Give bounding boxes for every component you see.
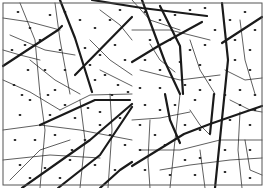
dot — [87, 107, 90, 109]
dot — [204, 7, 207, 9]
dot — [224, 149, 227, 151]
dot — [249, 149, 252, 151]
dot — [127, 91, 130, 93]
dot — [229, 19, 232, 21]
dot — [234, 39, 237, 41]
dot — [119, 117, 122, 119]
dot — [11, 49, 14, 51]
dot — [254, 29, 257, 31]
dot — [47, 94, 50, 96]
dot — [159, 69, 162, 71]
dot — [244, 11, 247, 13]
dot — [224, 171, 227, 173]
dot — [44, 167, 47, 169]
dot — [194, 174, 197, 176]
dot — [84, 139, 87, 141]
dot — [39, 39, 42, 41]
dot — [79, 19, 82, 21]
dot — [29, 99, 32, 101]
dot — [59, 49, 62, 51]
dot — [124, 59, 127, 61]
dot — [199, 129, 202, 131]
dot — [249, 69, 252, 71]
dot — [249, 49, 252, 51]
dot — [59, 177, 62, 179]
dot — [109, 134, 112, 136]
dot — [149, 39, 152, 41]
dot — [154, 134, 157, 136]
dot — [234, 59, 237, 61]
dot — [189, 9, 192, 11]
dot — [159, 109, 162, 111]
dot — [159, 87, 162, 89]
dot — [74, 117, 77, 119]
dot — [249, 124, 252, 126]
dot — [249, 177, 252, 179]
dot — [144, 104, 147, 106]
dot — [29, 177, 32, 179]
dot — [114, 44, 117, 46]
dot — [19, 164, 22, 166]
dot — [169, 174, 172, 176]
dot — [64, 69, 67, 71]
dot — [111, 94, 114, 96]
dot — [64, 104, 67, 106]
dot — [94, 27, 97, 29]
dot — [199, 89, 202, 91]
dot — [224, 94, 227, 96]
dot — [109, 19, 112, 21]
dot — [34, 139, 37, 141]
dot — [139, 87, 142, 89]
dot — [239, 104, 242, 106]
dot — [21, 94, 24, 96]
dot — [84, 47, 87, 49]
dot — [239, 89, 242, 91]
vein-network-illustration — [0, 0, 265, 188]
dot — [209, 79, 212, 81]
dot — [254, 94, 257, 96]
dot — [159, 19, 162, 21]
dot — [117, 84, 120, 86]
dot — [119, 9, 122, 11]
dot — [144, 59, 147, 61]
dot — [169, 39, 172, 41]
dot — [69, 159, 72, 161]
dot — [164, 144, 167, 146]
dot — [99, 111, 102, 113]
dot — [179, 61, 182, 63]
dot — [194, 99, 197, 101]
dot — [94, 79, 97, 81]
dot — [204, 44, 207, 46]
dot — [44, 69, 47, 71]
dot — [94, 164, 97, 166]
dot — [27, 69, 30, 71]
dot — [104, 74, 107, 76]
dot — [174, 14, 177, 16]
dot — [199, 64, 202, 66]
dot — [49, 14, 52, 16]
dot — [184, 84, 187, 86]
dot — [144, 169, 147, 171]
dot — [54, 89, 57, 91]
dot — [64, 11, 67, 13]
dot — [14, 139, 17, 141]
dot — [199, 157, 202, 159]
dot — [71, 149, 74, 151]
dot — [189, 49, 192, 51]
dot — [139, 124, 142, 126]
dot — [254, 109, 257, 111]
dot — [174, 104, 177, 106]
dot — [144, 11, 147, 13]
dot — [19, 114, 22, 116]
dot — [114, 169, 117, 171]
dot — [54, 134, 57, 136]
dot — [184, 124, 187, 126]
dot — [99, 124, 102, 126]
dot — [184, 159, 187, 161]
dot — [24, 44, 27, 46]
dot — [124, 144, 127, 146]
dot — [139, 149, 142, 151]
dot — [13, 84, 16, 86]
dot — [89, 64, 92, 66]
dot — [49, 114, 52, 116]
